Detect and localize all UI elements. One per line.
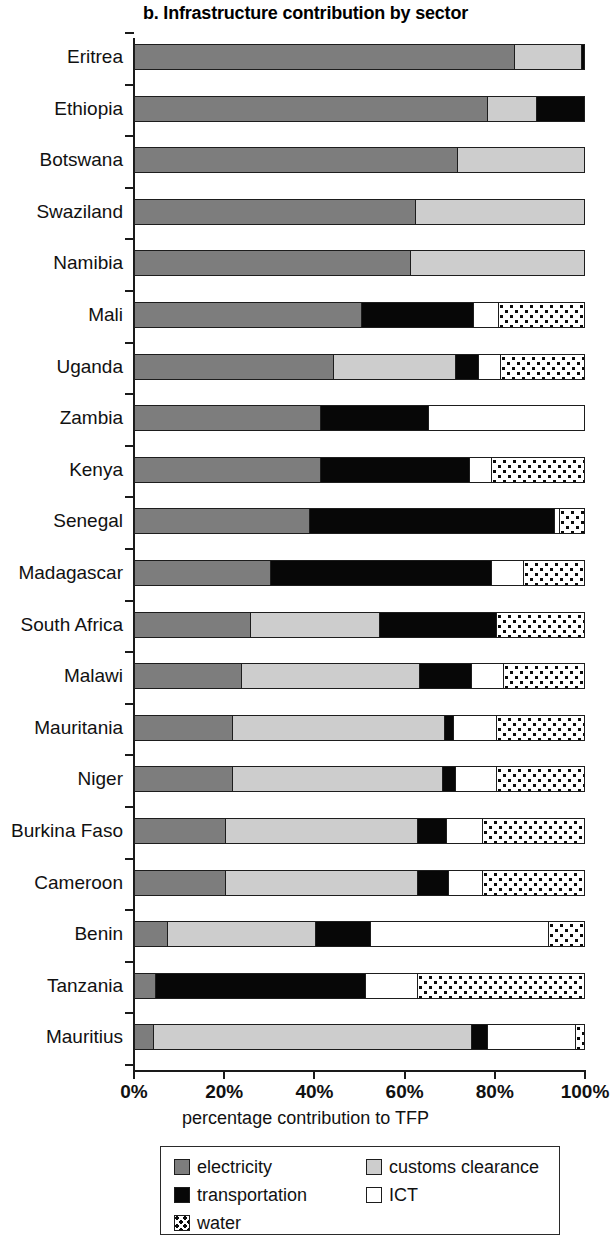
stacked-bar: [134, 921, 585, 947]
y-axis-label: Madagascar: [18, 560, 123, 586]
bar-segment-electricity: [135, 406, 320, 430]
y-axis-line: [133, 38, 135, 1070]
stacked-bar: [134, 147, 585, 173]
legend-item: transportation: [174, 1181, 307, 1209]
bar-segment-transportation: [320, 406, 428, 430]
x-axis-tick-label: 80%: [476, 1081, 514, 1103]
legend: electricitytransportationwater customs c…: [160, 1146, 560, 1235]
legend-item: water: [174, 1209, 307, 1236]
bar-segment-transportation: [581, 45, 585, 69]
x-axis-tick-label: 0%: [120, 1081, 147, 1103]
bar-segment-customs: [241, 664, 419, 688]
bar-segment-water: [496, 716, 585, 740]
bar-row: Swaziland: [134, 199, 585, 225]
infrastructure-contribution-chart: b. Infrastructure contribution by sector…: [0, 0, 611, 1236]
bar-segment-customs: [225, 871, 417, 895]
y-axis-tick: [125, 961, 134, 963]
y-axis-tick: [125, 32, 134, 34]
bar-segment-electricity: [135, 1025, 153, 1049]
bar-segment-customs: [232, 767, 442, 791]
bar-segment-water: [491, 458, 585, 482]
y-axis-tick: [125, 290, 134, 292]
legend-swatch-ict: [366, 1187, 382, 1203]
y-axis-tick: [125, 84, 134, 86]
y-axis-tick: [125, 754, 134, 756]
y-axis-tick: [125, 1064, 134, 1066]
plot-area: EritreaEthiopiaBotswanaSwazilandNamibiaM…: [134, 38, 585, 1070]
bar-row: Mauritius: [134, 1024, 585, 1050]
bar-segment-ict: [448, 871, 482, 895]
bar-row: Benin: [134, 921, 585, 947]
y-axis-tick: [125, 135, 134, 137]
bar-segment-electricity: [135, 97, 487, 121]
bar-segment-water: [417, 974, 585, 998]
bar-segment-customs: [167, 922, 316, 946]
bar-segment-transportation: [379, 613, 496, 637]
stacked-bar: [134, 1024, 585, 1050]
bar-segment-ict: [428, 406, 585, 430]
bar-segment-electricity: [135, 871, 225, 895]
stacked-bar: [134, 818, 585, 844]
y-axis-tick: [125, 600, 134, 602]
x-axis-tick: [223, 1070, 225, 1079]
stacked-bar: [134, 870, 585, 896]
legend-label: customs clearance: [389, 1157, 539, 1178]
bar-row: Zambia: [134, 405, 585, 431]
y-axis-label: Burkina Faso: [11, 818, 123, 844]
stacked-bar: [134, 663, 585, 689]
x-axis-tick-label: 60%: [386, 1081, 424, 1103]
y-axis-tick: [125, 806, 134, 808]
y-axis-label: Cameroon: [34, 870, 123, 896]
y-axis-label: Senegal: [53, 508, 123, 534]
bar-row: Niger: [134, 766, 585, 792]
bar-row: Mauritania: [134, 715, 585, 741]
bar-segment-transportation: [536, 97, 585, 121]
stacked-bar: [134, 508, 585, 534]
bar-row: South Africa: [134, 612, 585, 638]
bar-segment-electricity: [135, 148, 457, 172]
bar-segment-ict: [453, 716, 496, 740]
x-axis-tick: [133, 1070, 135, 1079]
y-axis-label: Zambia: [60, 405, 123, 431]
bar-segment-customs: [225, 819, 417, 843]
bar-segment-ict: [455, 767, 496, 791]
bar-segment-electricity: [135, 613, 250, 637]
y-axis-tick: [125, 858, 134, 860]
legend-column-left: electricitytransportationwater: [174, 1153, 307, 1236]
legend-label: transportation: [197, 1185, 307, 1206]
bar-segment-customs: [250, 613, 379, 637]
bar-segment-ict: [471, 664, 503, 688]
bar-segment-transportation: [417, 819, 446, 843]
y-axis-tick: [125, 445, 134, 447]
bar-segment-water: [500, 355, 585, 379]
bar-segment-electricity: [135, 561, 270, 585]
bar-row: Eritrea: [134, 44, 585, 70]
stacked-bar: [134, 96, 585, 122]
x-axis-tick-label: 20%: [205, 1081, 243, 1103]
legend-label: water: [197, 1213, 241, 1234]
bar-segment-electricity: [135, 716, 232, 740]
bar-segment-customs: [514, 45, 582, 69]
stacked-bar: [134, 405, 585, 431]
y-axis-tick: [125, 393, 134, 395]
bar-segment-transportation: [455, 355, 478, 379]
bar-segment-electricity: [135, 303, 361, 327]
stacked-bar: [134, 766, 585, 792]
bar-segment-electricity: [135, 974, 155, 998]
bar-segment-water: [523, 561, 585, 585]
bar-segment-ict: [365, 974, 417, 998]
y-axis-label: Uganda: [56, 354, 123, 380]
bar-segment-electricity: [135, 251, 410, 275]
bar-row: Mali: [134, 302, 585, 328]
y-axis-tick: [125, 651, 134, 653]
bar-row: Cameroon: [134, 870, 585, 896]
bar-segment-water: [548, 922, 585, 946]
y-axis-label: Benin: [74, 921, 123, 947]
y-axis-label: Namibia: [53, 250, 123, 276]
bar-segment-water: [496, 613, 585, 637]
x-axis-title: percentage contribution to TFP: [0, 1108, 611, 1129]
stacked-bar: [134, 457, 585, 483]
bar-segment-water: [498, 303, 585, 327]
stacked-bar: [134, 199, 585, 225]
y-axis-label: Botswana: [40, 147, 123, 173]
